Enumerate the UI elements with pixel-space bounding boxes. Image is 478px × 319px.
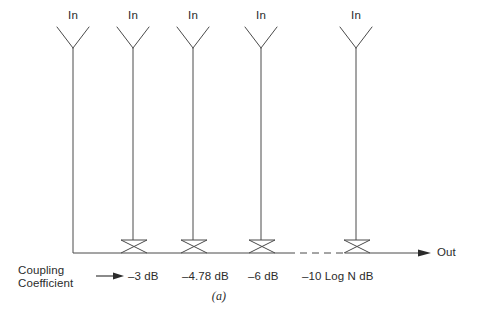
coupling-value-1: –3 dB — [128, 270, 159, 283]
input-label-5: In — [336, 9, 376, 22]
coupling-value-2: –4.78 dB — [182, 270, 229, 283]
antenna-symbol-3 — [177, 27, 209, 48]
feed-network-diagram — [0, 0, 478, 319]
coupler-symbol-3 — [249, 240, 275, 253]
figure-caption: (a) — [199, 290, 239, 303]
coupling-coefficient-title-line2: Coefficient — [18, 277, 73, 291]
coupler-symbol-1 — [121, 240, 147, 253]
output-arrow — [418, 250, 431, 257]
coupling-value-4: –10 Log N dB — [302, 270, 374, 283]
antenna-symbols-group — [57, 27, 372, 48]
output-label: Out — [437, 246, 456, 259]
figure-canvas: In In In In In Out Coupling Coefficient … — [0, 0, 478, 319]
antenna-symbol-1 — [57, 27, 89, 48]
coupling-coefficient-title-line1: Coupling — [18, 264, 64, 278]
coupler-symbol-4 — [344, 240, 370, 253]
coupler-symbol-2 — [181, 240, 207, 253]
input-label-3: In — [173, 9, 213, 22]
antenna-symbol-4 — [245, 27, 277, 48]
coupling-value-3: –6 dB — [248, 270, 279, 283]
input-label-4: In — [241, 9, 281, 22]
coupling-coefficient-arrow — [96, 273, 124, 280]
antenna-symbol-2 — [117, 27, 149, 48]
directional-couplers-group — [121, 240, 370, 253]
input-label-2: In — [113, 9, 153, 22]
vertical-feed-lines-group — [73, 48, 356, 253]
antenna-symbol-5 — [340, 27, 372, 48]
input-label-1: In — [53, 9, 93, 22]
